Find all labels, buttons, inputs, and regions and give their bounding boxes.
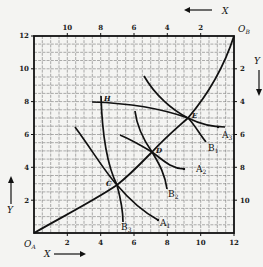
curve-b1-label: B1 bbox=[208, 143, 218, 154]
point-h-label: H bbox=[103, 94, 111, 103]
point-c-label: C bbox=[106, 179, 112, 188]
curve-a1-label: A1 bbox=[159, 218, 170, 229]
right-tick-label: 8 bbox=[240, 163, 245, 172]
top-tick-label: 10 bbox=[62, 23, 72, 32]
bottom-tick-label: 8 bbox=[165, 238, 170, 247]
edgeworth-box-diagram: 2 4 6 8 10 12 2 4 6 8 10 12 10 8 6 4 2 2… bbox=[0, 0, 263, 267]
bottom-tick-label: 2 bbox=[65, 238, 70, 247]
arrow-left-icon bbox=[184, 7, 212, 13]
curve-b2-label: B2 bbox=[168, 189, 179, 200]
bottom-tick-label: 6 bbox=[132, 238, 137, 247]
bottom-tick-label: 12 bbox=[229, 238, 239, 247]
x-axis-label-top: X bbox=[221, 6, 229, 16]
curve-a2-label: A2 bbox=[195, 164, 207, 175]
arrow-down-icon bbox=[256, 70, 262, 96]
arrow-up-icon bbox=[8, 176, 14, 204]
arrow-right-icon bbox=[54, 251, 86, 257]
left-tick-label: 8 bbox=[24, 97, 29, 106]
origin-a-label: OA bbox=[24, 239, 36, 250]
origin-b-label: OB bbox=[238, 24, 250, 35]
curve-b3-label: B3 bbox=[121, 222, 132, 233]
left-tick-label: 4 bbox=[24, 163, 29, 172]
top-tick-label: 4 bbox=[165, 23, 170, 32]
y-axis-label-right: Y bbox=[254, 56, 261, 66]
left-tick-label: 2 bbox=[24, 196, 29, 205]
x-axis-label-bottom: X bbox=[43, 249, 51, 259]
point-e-label: E bbox=[191, 111, 198, 120]
y-axis-label-left: Y bbox=[7, 205, 14, 215]
point-d-label: D bbox=[155, 146, 163, 155]
curve-a3-label: A3 bbox=[221, 130, 233, 141]
right-tick-label: 4 bbox=[240, 97, 245, 106]
bottom-tick-label: 10 bbox=[196, 238, 206, 247]
bottom-tick-label: 4 bbox=[98, 238, 103, 247]
right-tick-label: 6 bbox=[240, 130, 245, 139]
indifference-curve-a3 bbox=[92, 102, 225, 127]
right-tick-label: 2 bbox=[240, 64, 245, 73]
top-tick-label: 6 bbox=[132, 23, 137, 32]
right-tick-label: 10 bbox=[240, 196, 250, 205]
left-tick-label: 10 bbox=[19, 64, 29, 73]
left-tick-label: 6 bbox=[24, 130, 29, 139]
left-tick-label: 12 bbox=[19, 31, 29, 40]
top-tick-label: 2 bbox=[198, 23, 203, 32]
top-tick-label: 8 bbox=[98, 23, 103, 32]
